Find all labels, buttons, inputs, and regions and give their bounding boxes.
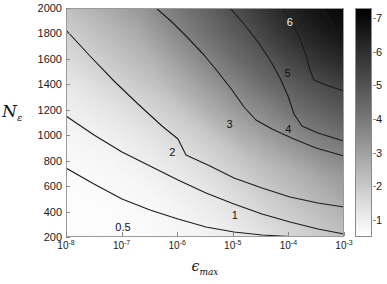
y-axis-label: Nε bbox=[2, 101, 22, 123]
colorbar-tick-label: 5 bbox=[376, 80, 382, 91]
y-axis-tick-mark bbox=[66, 161, 70, 162]
y-axis-tick-mark bbox=[66, 212, 70, 213]
contour-figure: 0.5123456 200400600800100012001400160018… bbox=[0, 0, 387, 284]
contour-fill-noise bbox=[66, 8, 344, 237]
y-axis-tick-label: 400 bbox=[28, 206, 62, 217]
contour-level-label: 0.5 bbox=[115, 221, 130, 232]
colorbar-tick-label: 1 bbox=[376, 215, 382, 226]
contour-plot bbox=[66, 8, 344, 237]
x-axis-tick-mark bbox=[122, 232, 123, 236]
contour-level-label: 1 bbox=[232, 210, 238, 221]
y-axis-tick-label: 1600 bbox=[28, 53, 62, 64]
contour-level-label: 6 bbox=[287, 17, 293, 28]
x-axis-tick-label: 10-3 bbox=[335, 240, 352, 251]
x-axis-tick-mark bbox=[344, 232, 345, 236]
x-axis-tick-label: 10-5 bbox=[224, 240, 241, 251]
contour-level-label: 4 bbox=[285, 124, 291, 135]
y-axis-tick-label: 1200 bbox=[28, 104, 62, 115]
colorbar-tick-mark bbox=[373, 220, 376, 221]
x-axis-tick-label: 10-4 bbox=[280, 240, 297, 251]
y-axis-tick-mark bbox=[66, 135, 70, 136]
x-axis-label: ϵmax bbox=[0, 258, 387, 277]
x-axis-tick-mark bbox=[177, 232, 178, 236]
colorbar-tick-label: 6 bbox=[376, 46, 382, 57]
y-axis-tick-marks bbox=[66, 8, 72, 237]
y-axis-tick-mark bbox=[66, 33, 70, 34]
contour-level-label: 3 bbox=[226, 119, 232, 130]
y-axis-tick-label: 1000 bbox=[28, 130, 62, 141]
colorbar-tick-mark bbox=[373, 119, 376, 120]
colorbar bbox=[355, 8, 372, 237]
colorbar-tick-label: 3 bbox=[376, 147, 382, 158]
x-axis-tick-label: 10-8 bbox=[57, 240, 74, 251]
y-axis-tick-label: 600 bbox=[28, 181, 62, 192]
colorbar-tick-mark bbox=[373, 18, 376, 19]
y-axis-tick-label: 1400 bbox=[28, 79, 62, 90]
x-axis-tick-mark bbox=[66, 232, 67, 236]
y-axis-tick-label: 800 bbox=[28, 155, 62, 166]
y-axis-tick-mark bbox=[66, 110, 70, 111]
colorbar-tick-mark bbox=[373, 186, 376, 187]
x-axis-tick-mark bbox=[288, 232, 289, 236]
colorbar-tick-label: 4 bbox=[376, 114, 382, 125]
y-axis-tick-label: 2000 bbox=[28, 3, 62, 14]
colorbar-tick-label: 2 bbox=[376, 181, 382, 192]
plot-area: 0.5123456 bbox=[66, 8, 344, 237]
x-axis-tick-mark bbox=[233, 232, 234, 236]
x-axis-tick-labels: 10-810-710-610-510-410-3 bbox=[66, 240, 344, 258]
colorbar-tick-labels: 1234567 bbox=[373, 8, 387, 237]
colorbar-tick-mark bbox=[373, 153, 376, 154]
x-axis-tick-marks bbox=[66, 232, 344, 238]
colorbar-tick-mark bbox=[373, 85, 376, 86]
x-axis-tick-label: 10-6 bbox=[169, 240, 186, 251]
y-axis-tick-mark bbox=[66, 8, 70, 9]
y-axis-tick-mark bbox=[66, 84, 70, 85]
y-axis-tick-mark bbox=[66, 186, 70, 187]
y-axis-tick-labels: 200400600800100012001400160018002000 bbox=[26, 8, 62, 237]
x-axis-tick-label: 10-7 bbox=[113, 240, 130, 251]
y-axis-tick-mark bbox=[66, 59, 70, 60]
y-axis-tick-label: 1800 bbox=[28, 28, 62, 39]
contour-level-label: 2 bbox=[169, 147, 175, 158]
colorbar-tick-mark bbox=[373, 52, 376, 53]
colorbar-tick-label: 7 bbox=[376, 13, 382, 24]
contour-level-label: 5 bbox=[285, 67, 291, 78]
